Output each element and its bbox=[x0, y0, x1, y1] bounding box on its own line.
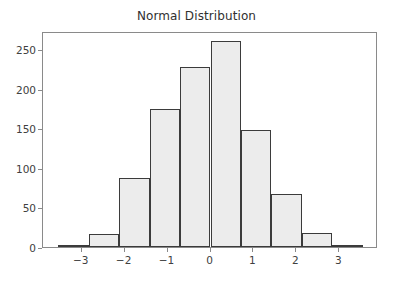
histogram-bar bbox=[180, 67, 210, 247]
histogram-bar bbox=[302, 233, 332, 247]
x-tick-mark bbox=[81, 248, 82, 252]
histogram-bar bbox=[119, 178, 149, 247]
x-tick-mark bbox=[124, 248, 125, 252]
x-tick-label: 1 bbox=[240, 254, 264, 266]
histogram-bar bbox=[271, 194, 301, 247]
x-tick-mark bbox=[252, 248, 253, 252]
histogram-bar bbox=[241, 130, 271, 247]
plot-frame bbox=[42, 32, 377, 248]
figure-canvas: Normal Distribution 050100150200250 −3−2… bbox=[0, 0, 393, 287]
x-tick-mark bbox=[295, 248, 296, 252]
x-tick-mark bbox=[210, 248, 211, 252]
x-tick-label: −2 bbox=[112, 254, 136, 266]
plot-area bbox=[43, 33, 376, 247]
x-tick-mark bbox=[167, 248, 168, 252]
x-tick-label: −3 bbox=[69, 254, 93, 266]
histogram-bar bbox=[150, 109, 180, 247]
histogram-bar bbox=[58, 245, 88, 247]
x-tick-mark bbox=[338, 248, 339, 252]
histogram-bar bbox=[332, 245, 362, 247]
x-tick-label: 0 bbox=[198, 254, 222, 266]
x-tick-label: 3 bbox=[326, 254, 350, 266]
x-tick-label: 2 bbox=[283, 254, 307, 266]
x-tick-label: −1 bbox=[155, 254, 179, 266]
histogram-bar bbox=[89, 234, 119, 247]
histogram-bar bbox=[211, 41, 241, 247]
